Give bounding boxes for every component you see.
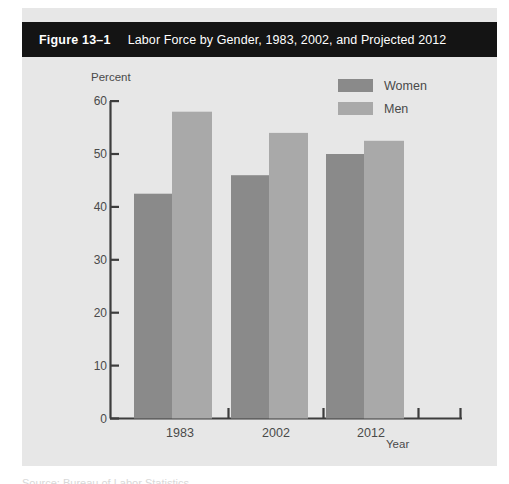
y-tick-label-60: 60 — [77, 94, 107, 108]
x-tick-label-1983: 1983 — [166, 426, 194, 440]
legend-label-women: Women — [384, 79, 427, 93]
bar-men-2012 — [364, 141, 404, 419]
y-tick-label-10: 10 — [77, 359, 107, 373]
legend-swatch-women — [338, 79, 373, 92]
y-axis-title: Percent — [91, 71, 131, 83]
footer-source-text: Source: Bureau of Labor Statistics — [22, 477, 342, 484]
x-axis-title: Year — [386, 438, 409, 450]
bar-women-2002 — [231, 175, 269, 418]
legend-item-women: Women — [338, 76, 427, 95]
x-tick-label-2002: 2002 — [262, 426, 290, 440]
y-tick-label-50: 50 — [77, 147, 107, 161]
y-tick-label-0: 0 — [77, 412, 107, 426]
chart-legend: Women Men — [338, 76, 427, 122]
legend-item-men: Men — [338, 99, 427, 118]
bar-men-2002 — [269, 133, 308, 419]
bar-men-1983 — [172, 112, 212, 419]
y-tick-label-40: 40 — [77, 200, 107, 214]
y-tick-label-30: 30 — [77, 253, 107, 267]
bar-women-2012 — [326, 154, 364, 419]
figure-panel: Figure 13–1 Labor Force by Gender, 1983,… — [22, 8, 497, 466]
y-tick-label-20: 20 — [77, 306, 107, 320]
legend-swatch-men — [338, 102, 373, 115]
x-tick-label-2012: 2012 — [357, 426, 385, 440]
legend-label-men: Men — [384, 102, 408, 116]
bar-women-1983 — [134, 194, 172, 419]
